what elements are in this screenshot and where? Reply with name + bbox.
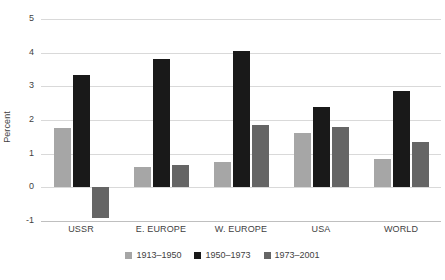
legend-swatch-icon bbox=[264, 252, 271, 259]
legend-label: 1973–2001 bbox=[275, 250, 320, 260]
legend-item[interactable]: 1913–1950 bbox=[125, 250, 181, 260]
bar-chart: Percent 543210-1 USSRE. EUROPEW. EUROPEU… bbox=[0, 0, 445, 280]
bar[interactable] bbox=[332, 127, 349, 188]
x-axis-label-w-europe: W. EUROPE bbox=[201, 224, 281, 234]
bar[interactable] bbox=[54, 128, 71, 187]
x-axis-label-usa: USA bbox=[281, 224, 361, 234]
bar[interactable] bbox=[313, 107, 330, 188]
y-axis-tick-label: 4 bbox=[6, 47, 34, 57]
bar-group bbox=[41, 19, 121, 221]
plot-area: 543210-1 bbox=[41, 19, 441, 221]
gridline--1 bbox=[41, 221, 441, 222]
bar[interactable] bbox=[92, 187, 109, 217]
bar-group bbox=[201, 19, 281, 221]
legend-label: 1913–1950 bbox=[136, 250, 181, 260]
legend-swatch-icon bbox=[125, 252, 132, 259]
bar[interactable] bbox=[153, 59, 170, 187]
y-axis-tick-label: 5 bbox=[6, 13, 34, 23]
bar[interactable] bbox=[214, 162, 231, 187]
bar-group bbox=[361, 19, 441, 221]
legend-label: 1950–1973 bbox=[205, 250, 250, 260]
bar[interactable] bbox=[252, 125, 269, 187]
y-axis-tick-label: 3 bbox=[6, 80, 34, 90]
bar-group bbox=[281, 19, 361, 221]
bar-group bbox=[121, 19, 201, 221]
y-axis-tick-label: 2 bbox=[6, 114, 34, 124]
bar[interactable] bbox=[393, 91, 410, 187]
bar[interactable] bbox=[172, 165, 189, 187]
bar[interactable] bbox=[412, 142, 429, 187]
bar[interactable] bbox=[294, 133, 311, 187]
x-axis-label-e-europe: E. EUROPE bbox=[121, 224, 201, 234]
x-axis-label-world: WORLD bbox=[361, 224, 441, 234]
x-axis-label-ussr: USSR bbox=[41, 224, 121, 234]
bar[interactable] bbox=[233, 51, 250, 187]
legend-swatch-icon bbox=[194, 252, 201, 259]
bar[interactable] bbox=[73, 75, 90, 188]
legend-item[interactable]: 1973–2001 bbox=[264, 250, 320, 260]
bar[interactable] bbox=[134, 167, 151, 187]
chart-legend: 1913–19501950–19731973–2001 bbox=[0, 250, 445, 260]
y-axis-tick-label: 0 bbox=[6, 181, 34, 191]
x-axis-labels: USSRE. EUROPEW. EUROPEUSAWORLD bbox=[41, 224, 441, 240]
y-axis-tick-label: 1 bbox=[6, 148, 34, 158]
legend-item[interactable]: 1950–1973 bbox=[194, 250, 250, 260]
bar[interactable] bbox=[374, 159, 391, 188]
y-axis-tick-label: -1 bbox=[6, 215, 34, 225]
